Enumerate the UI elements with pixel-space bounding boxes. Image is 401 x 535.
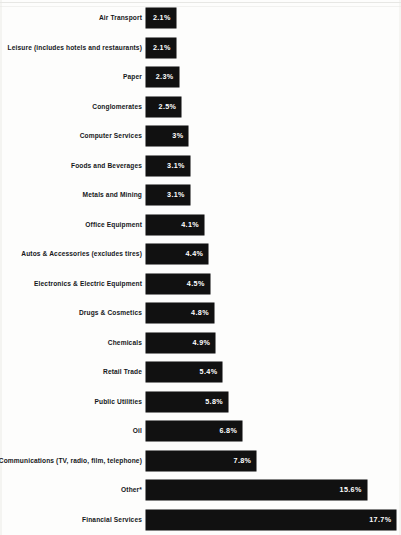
bar: 2.1% bbox=[146, 38, 176, 58]
category-label: Office Equipment bbox=[85, 215, 142, 235]
bar-row: Metals and Mining3.1% bbox=[0, 185, 401, 205]
bar-value-label: 2.3% bbox=[156, 67, 174, 87]
category-label: Other* bbox=[121, 480, 142, 500]
category-label: Oil bbox=[133, 421, 142, 441]
bar: 4.1% bbox=[146, 215, 204, 235]
bar: 3.1% bbox=[146, 156, 190, 176]
bar: 15.6% bbox=[146, 480, 367, 500]
bar-value-label: 17.7% bbox=[369, 510, 391, 530]
bar: 4.5% bbox=[146, 274, 210, 294]
bar-value-label: 4.9% bbox=[193, 333, 211, 353]
bar: 5.4% bbox=[146, 362, 222, 382]
category-label: Electronics & Electric Equipment bbox=[34, 274, 142, 294]
category-label: Public Utilities bbox=[94, 392, 142, 412]
bar-row: Oil6.8% bbox=[0, 421, 401, 441]
bar-row: Conglomerates2.5% bbox=[0, 97, 401, 117]
bar-value-label: 3% bbox=[172, 126, 183, 146]
bar: 17.7% bbox=[146, 510, 396, 530]
bar-row: Leisure (includes hotels and restaurants… bbox=[0, 38, 401, 58]
bar: 3% bbox=[146, 126, 188, 146]
bar: 7.8% bbox=[146, 451, 256, 471]
bar-value-label: 4.4% bbox=[185, 244, 203, 264]
bar-row: Electronics & Electric Equipment4.5% bbox=[0, 274, 401, 294]
bar-row: Autos & Accessories (excludes tires)4.4% bbox=[0, 244, 401, 264]
category-label: Conglomerates bbox=[92, 97, 142, 117]
bar: 6.8% bbox=[146, 421, 242, 441]
bar-value-label: 4.5% bbox=[187, 274, 205, 294]
category-label: Retail Trade bbox=[103, 362, 142, 382]
bar-value-label: 2.5% bbox=[159, 97, 177, 117]
bar-value-label: 4.8% bbox=[191, 303, 209, 323]
category-label: Chemicals bbox=[108, 333, 142, 353]
bar-chart-plot-area: Air Transport2.1%Leisure (includes hotel… bbox=[0, 0, 401, 535]
bar-row: Other*15.6% bbox=[0, 480, 401, 500]
bar-row: Paper2.3% bbox=[0, 67, 401, 87]
category-label: Computer Services bbox=[80, 126, 142, 146]
bar-value-label: 2.1% bbox=[153, 8, 171, 28]
bar-row: Public Utilities5.8% bbox=[0, 392, 401, 412]
bar-value-label: 15.6% bbox=[340, 480, 362, 500]
bar: 4.4% bbox=[146, 244, 208, 264]
bar-value-label: 6.8% bbox=[219, 421, 237, 441]
bar-row: Communications (TV, radio, film, telepho… bbox=[0, 451, 401, 471]
category-label: Financial Services bbox=[82, 510, 142, 530]
bar: 2.3% bbox=[146, 67, 179, 87]
category-label: Autos & Accessories (excludes tires) bbox=[21, 244, 142, 264]
bar: 2.1% bbox=[146, 8, 176, 28]
bar-value-label: 3.1% bbox=[167, 185, 185, 205]
category-label: Leisure (includes hotels and restaurants… bbox=[8, 38, 142, 58]
bar: 3.1% bbox=[146, 185, 190, 205]
bar-value-label: 5.8% bbox=[205, 392, 223, 412]
bar-row: Foods and Beverages3.1% bbox=[0, 156, 401, 176]
bar-value-label: 5.4% bbox=[200, 362, 218, 382]
bar-value-label: 7.8% bbox=[234, 451, 252, 471]
category-label: Foods and Beverages bbox=[71, 156, 142, 176]
category-label: Air Transport bbox=[99, 8, 142, 28]
category-label: Drugs & Cosmetics bbox=[79, 303, 142, 323]
category-label: Paper bbox=[123, 67, 142, 87]
bar-row: Office Equipment4.1% bbox=[0, 215, 401, 235]
bar-row: Financial Services17.7% bbox=[0, 510, 401, 530]
bar-row: Chemicals4.9% bbox=[0, 333, 401, 353]
chart-canvas: Air Transport2.1%Leisure (includes hotel… bbox=[0, 0, 401, 535]
category-label: Metals and Mining bbox=[83, 185, 142, 205]
bar-value-label: 4.1% bbox=[181, 215, 199, 235]
bar-row: Air Transport2.1% bbox=[0, 8, 401, 28]
bar: 5.8% bbox=[146, 392, 228, 412]
bar: 4.8% bbox=[146, 303, 214, 323]
bar: 2.5% bbox=[146, 97, 181, 117]
bar-row: Retail Trade5.4% bbox=[0, 362, 401, 382]
category-label: Communications (TV, radio, film, telepho… bbox=[0, 451, 142, 471]
bar-value-label: 3.1% bbox=[167, 156, 185, 176]
bar-value-label: 2.1% bbox=[153, 38, 171, 58]
bar: 4.9% bbox=[146, 333, 215, 353]
bar-row: Drugs & Cosmetics4.8% bbox=[0, 303, 401, 323]
bar-row: Computer Services3% bbox=[0, 126, 401, 146]
